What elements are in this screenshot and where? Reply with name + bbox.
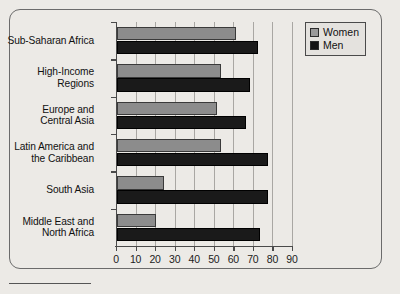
y-tick bbox=[111, 171, 116, 172]
gridline bbox=[175, 22, 176, 246]
legend-label-men: Men bbox=[323, 40, 343, 51]
x-tick bbox=[292, 246, 293, 251]
bar-women bbox=[117, 64, 221, 78]
category-label-line: Regions bbox=[0, 78, 94, 90]
bar-men bbox=[117, 78, 250, 92]
bar-men bbox=[117, 153, 268, 167]
chart-legend: Women Men bbox=[305, 22, 366, 56]
category-label-line: Middle East and bbox=[0, 216, 94, 228]
x-axis bbox=[115, 246, 293, 247]
gridline bbox=[292, 22, 293, 246]
bar-women bbox=[117, 176, 164, 190]
category-label-line: High-Income bbox=[0, 66, 94, 78]
bar-men bbox=[117, 116, 246, 130]
x-tick bbox=[272, 246, 273, 251]
bar-men bbox=[117, 41, 258, 55]
bar-men bbox=[117, 190, 268, 204]
gridline bbox=[253, 22, 254, 246]
x-tick bbox=[214, 246, 215, 251]
gridline bbox=[233, 22, 234, 246]
category-label: Europe andCentral Asia bbox=[0, 104, 94, 127]
legend-item-men[interactable]: Men bbox=[310, 39, 359, 52]
x-tick bbox=[253, 246, 254, 251]
chart-area: 0102030405060708090 Sub-Saharan AfricaHi… bbox=[0, 0, 400, 294]
y-axis bbox=[116, 22, 117, 246]
category-label: Middle East andNorth Africa bbox=[0, 216, 94, 239]
bar-women bbox=[117, 102, 217, 116]
category-label: South Asia bbox=[0, 184, 94, 196]
x-tick bbox=[136, 246, 137, 251]
x-tick bbox=[194, 246, 195, 251]
category-label: High-IncomeRegions bbox=[0, 66, 94, 89]
gridline bbox=[194, 22, 195, 246]
gridline bbox=[155, 22, 156, 246]
category-label-line: Central Asia bbox=[0, 115, 94, 127]
women-swatch-icon bbox=[310, 28, 319, 37]
category-label-line: Europe and bbox=[0, 104, 94, 116]
gridline bbox=[272, 22, 273, 246]
y-tick bbox=[111, 22, 116, 23]
bar-women bbox=[117, 27, 236, 41]
x-tick bbox=[116, 246, 117, 251]
category-label-line: South Asia bbox=[0, 184, 94, 196]
category-label-line: North Africa bbox=[0, 227, 94, 239]
bar-women bbox=[117, 214, 156, 228]
category-label: Sub-Saharan Africa bbox=[0, 35, 94, 47]
x-tick bbox=[175, 246, 176, 251]
legend-item-women[interactable]: Women bbox=[310, 26, 359, 39]
category-label: Latin America andthe Caribbean bbox=[0, 141, 94, 164]
gridline bbox=[214, 22, 215, 246]
y-tick bbox=[111, 209, 116, 210]
x-tick bbox=[155, 246, 156, 251]
plot-region: 0102030405060708090 bbox=[116, 22, 292, 246]
bar-women bbox=[117, 139, 221, 153]
y-tick bbox=[111, 59, 116, 60]
category-label-line: Sub-Saharan Africa bbox=[0, 35, 94, 47]
category-label-line: the Caribbean bbox=[0, 153, 94, 165]
category-label-line: Latin America and bbox=[0, 141, 94, 153]
x-tick bbox=[233, 246, 234, 251]
men-swatch-icon bbox=[310, 41, 319, 50]
y-tick bbox=[111, 134, 116, 135]
y-tick bbox=[111, 97, 116, 98]
legend-label-women: Women bbox=[323, 27, 359, 38]
gridline bbox=[136, 22, 137, 246]
x-tick-label: 90 bbox=[277, 253, 307, 265]
bar-men bbox=[117, 228, 260, 242]
